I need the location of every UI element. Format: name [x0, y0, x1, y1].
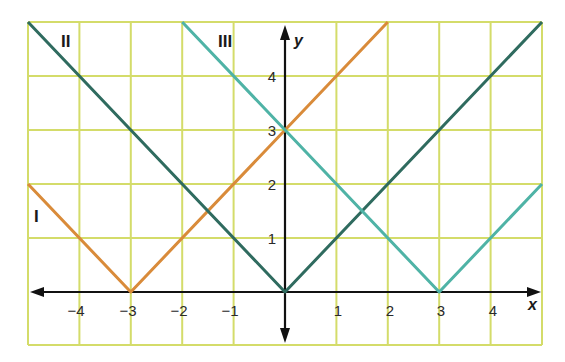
y-tick: 4 — [268, 68, 276, 85]
y-axis-up-arrow-icon — [280, 25, 290, 40]
x-tick: −3 — [119, 302, 136, 319]
x-axis-label: x — [527, 296, 538, 313]
x-axis-left-arrow-icon — [30, 287, 44, 297]
x-tick: 1 — [334, 302, 342, 319]
x-tick: 2 — [386, 302, 394, 319]
chart-area: −4 −3 −2 −1 1 2 3 4 1 2 3 4 x y I II III — [0, 0, 565, 362]
y-tick: 1 — [268, 230, 276, 247]
y-axis-down-arrow-icon — [280, 328, 290, 343]
y-axis-label: y — [293, 32, 304, 49]
graph-III-label: III — [218, 32, 232, 51]
graph-III-line — [182, 22, 542, 292]
graph-II-label: II — [61, 32, 70, 51]
y-tick: 2 — [268, 176, 276, 193]
x-tick: 3 — [437, 302, 445, 319]
x-tick: 4 — [489, 302, 497, 319]
x-tick: −4 — [67, 302, 84, 319]
y-tick-labels: 1 2 3 4 — [268, 68, 276, 247]
y-tick: 3 — [268, 122, 276, 139]
x-tick-labels: −4 −3 −2 −1 1 2 3 4 — [67, 302, 497, 319]
graph-I-label: I — [34, 207, 39, 226]
x-tick: −1 — [221, 302, 238, 319]
graph-I-line — [28, 22, 388, 292]
x-tick: −2 — [170, 302, 187, 319]
